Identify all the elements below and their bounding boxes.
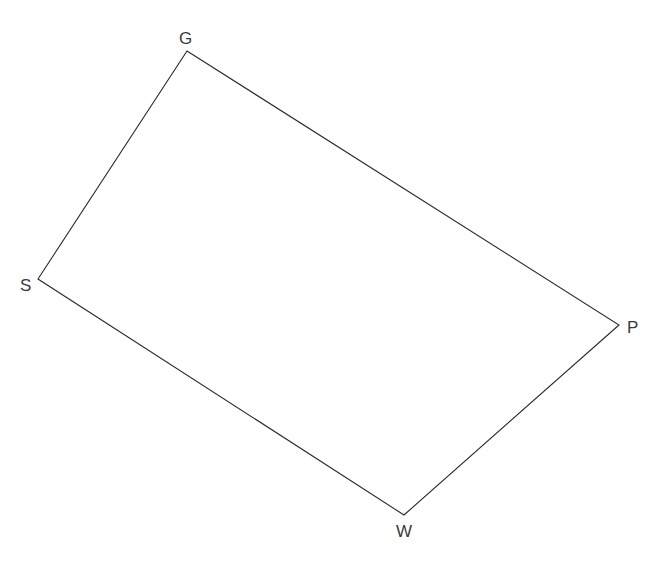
vertex-label-s: S [20, 276, 31, 295]
quadrilateral-diagram: G P W S [0, 0, 672, 569]
vertex-label-w: W [396, 522, 412, 541]
quadrilateral-gpws [38, 51, 619, 515]
vertex-label-g: G [179, 29, 192, 48]
vertex-label-p: P [627, 318, 638, 337]
